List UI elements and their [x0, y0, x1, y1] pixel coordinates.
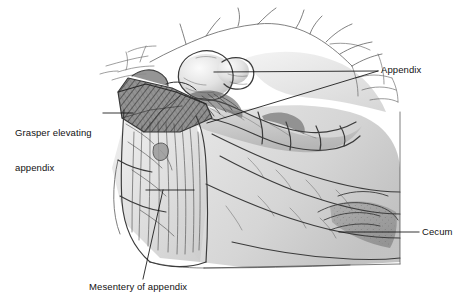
label-appendix: Appendix: [381, 64, 421, 76]
mesentery-window: [153, 143, 168, 161]
illustration-page: Appendix Grasper elevating appendix Cecu…: [0, 0, 469, 305]
label-grasper-line-2: appendix: [15, 162, 92, 174]
label-cecum: Cecum: [422, 226, 453, 238]
label-grasper-line-1: Grasper elevating: [15, 127, 92, 139]
label-mesentery-of-appendix: Mesentery of appendix: [89, 281, 187, 293]
label-grasper-elevating-appendix: Grasper elevating appendix: [15, 104, 92, 196]
upper-fold-wash: [246, 52, 386, 112]
